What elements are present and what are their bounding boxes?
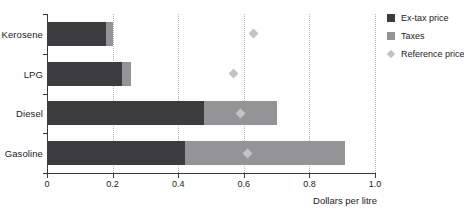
y-axis-tick [43,54,47,55]
bar-diesel-ex-tax-price [47,101,204,125]
bar-gasoline-ex-tax-price [47,141,185,165]
x-axis-tick-0 [47,174,48,178]
bar-gasoline-taxes [185,141,346,165]
category-label-kerosene: Kerosene [0,28,43,39]
category-label-diesel: Diesel [0,108,43,119]
x-axis-tick-0.4 [178,174,179,178]
x-axis-tick-0.2 [113,174,114,178]
marker-lpg-reference-price [229,69,239,79]
x-axis-title: Dollars per litre [313,195,377,206]
x-tick-label-0.8: 0.8 [303,179,316,189]
marker-kerosene-reference-price [249,29,259,39]
legend-label: Taxes [401,31,425,41]
y-axis-tick [43,94,47,95]
legend-item-ex-tax-price: Ex-tax price [387,11,464,24]
fuel-price-chart: Ex-tax priceTaxesReference price Dollars… [0,0,464,211]
legend-label: Ex-tax price [401,13,449,23]
x-tick-label-1: 1.0 [369,179,382,189]
plot-area [47,14,375,173]
bar-kerosene-taxes [106,22,113,46]
x-tick-label-0.4: 0.4 [172,179,185,189]
x-axis-line [47,173,376,174]
bar-lpg-ex-tax-price [47,62,122,86]
legend-item-taxes: Taxes [387,29,464,42]
y-axis-tick [43,133,47,134]
square-swatch-icon [387,32,395,40]
x-tick-label-0: 0 [44,179,49,189]
category-label-lpg: LPG [0,68,43,79]
legend-label: Reference price [401,49,464,59]
x-axis-tick-1 [375,174,376,178]
diamond-swatch-icon [387,49,395,57]
legend: Ex-tax priceTaxesReference price [387,11,464,60]
legend-item-reference-price: Reference price [387,47,464,60]
category-label-gasoline: Gasoline [0,148,43,159]
x-tick-label-0.2: 0.2 [106,179,119,189]
y-axis-tick [43,14,47,15]
square-swatch-icon [387,14,395,22]
x-tick-label-0.6: 0.6 [238,179,251,189]
x-axis-tick-0.6 [244,174,245,178]
bar-lpg-taxes [122,62,130,86]
bar-kerosene-ex-tax-price [47,22,106,46]
x-axis-tick-0.8 [309,174,310,178]
gridline-1 [375,14,376,173]
